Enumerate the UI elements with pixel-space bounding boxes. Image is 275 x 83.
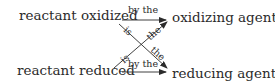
label-top-by-the: by the: [128, 4, 158, 15]
label-bottom-by-the: by the: [128, 58, 158, 69]
node-reactant-reduced: reactant reduced: [17, 62, 135, 78]
node-oxidizing-agent: oxidizing agent: [172, 9, 275, 25]
node-reducing-agent: reducing agent: [172, 65, 275, 81]
node-reactant-oxidized: reactant oxidized: [19, 7, 138, 23]
redox-relationship-diagram: reactant oxidized oxidizing agent reacta…: [0, 0, 275, 83]
